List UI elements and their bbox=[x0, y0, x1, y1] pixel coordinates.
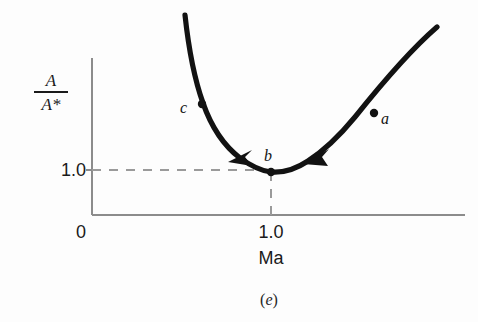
point-marker-b bbox=[267, 168, 275, 176]
point-label-b: b bbox=[264, 148, 272, 164]
guide-lines-group bbox=[92, 170, 271, 215]
y-axis-label-denominator: A* bbox=[28, 95, 74, 113]
figure-panel: A A* 1.0 0 1.0 Ma c b a (e) bbox=[0, 0, 478, 322]
point-label-c: c bbox=[180, 100, 187, 116]
data-curve-group bbox=[185, 15, 437, 172]
point-marker-c bbox=[198, 100, 206, 108]
y-axis-label: A A* bbox=[28, 72, 74, 113]
caption-close-paren: ) bbox=[273, 291, 278, 308]
figure-caption: (e) bbox=[219, 292, 319, 308]
caption-letter: e bbox=[265, 291, 272, 308]
x-axis-title: Ma bbox=[241, 249, 301, 267]
y-tick-label-one: 1.0 bbox=[28, 161, 86, 179]
x-tick-label-zero: 0 bbox=[66, 223, 96, 241]
y-axis-label-numerator: A bbox=[28, 72, 74, 91]
state-points-group bbox=[198, 100, 378, 176]
area-ratio-curve bbox=[185, 15, 437, 172]
point-marker-a bbox=[370, 109, 378, 117]
flow-arrowhead-supersonic bbox=[303, 149, 329, 166]
fraction-bar bbox=[34, 91, 68, 93]
axes-group bbox=[86, 58, 465, 215]
x-tick-label-one: 1.0 bbox=[241, 223, 301, 241]
point-label-a: a bbox=[381, 111, 389, 127]
